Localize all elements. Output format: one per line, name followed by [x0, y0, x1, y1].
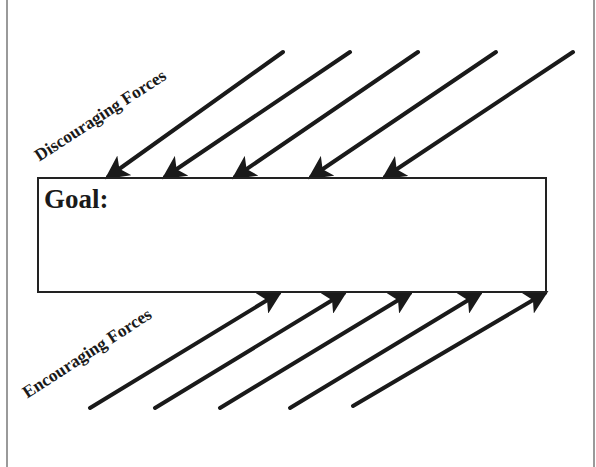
goal-label: Goal: [44, 184, 109, 215]
discouraging-arrow-icon [385, 52, 573, 177]
discouraging-arrow-icon [235, 52, 418, 177]
encouraging-arrows-group [90, 293, 545, 408]
discouraging-arrow-icon [311, 52, 496, 177]
discouraging-arrows-group [108, 52, 573, 177]
goal-box[interactable]: Goal: [37, 177, 547, 293]
